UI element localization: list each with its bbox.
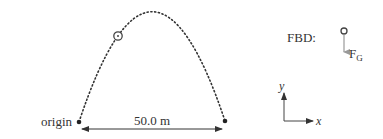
fbd-ball <box>341 28 347 34</box>
range-label: 50.0 m <box>134 113 170 128</box>
projectile-diagram: origin 50.0 m FBD: FG y x <box>0 0 383 139</box>
landing-point <box>223 119 228 124</box>
y-axis-label: y <box>278 79 285 93</box>
x-axis-label: x <box>315 114 322 128</box>
coordinate-axes: y x <box>278 79 322 128</box>
trajectory-path <box>79 12 225 122</box>
projectile-ball <box>114 32 122 40</box>
gravity-force-label: FG <box>349 46 363 63</box>
origin-label: origin <box>41 114 73 129</box>
force-symbol: F <box>349 46 356 61</box>
origin-point <box>77 120 82 125</box>
force-subscript: G <box>356 53 363 63</box>
fbd-label: FBD: <box>287 30 316 45</box>
